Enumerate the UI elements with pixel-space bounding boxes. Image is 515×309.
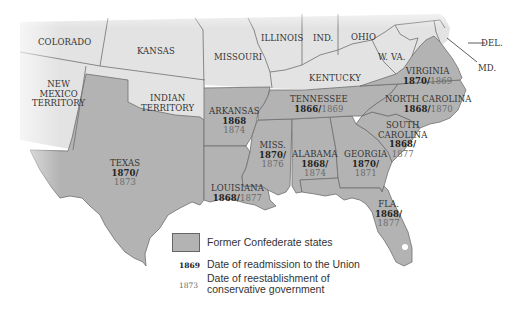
lake-okeechobee xyxy=(402,244,408,250)
legend-readmission-sample: 1869 xyxy=(179,261,200,270)
conservative-year: 1874 xyxy=(209,126,260,136)
state-dates: 1866/1869 xyxy=(290,105,348,115)
readmission-year: 1868 xyxy=(404,104,428,114)
label-alabama: ALABAMA 1868/ 1874 xyxy=(292,150,338,179)
conservative-year: 1874 xyxy=(292,169,338,179)
label-kansas: KANSAS xyxy=(137,47,175,57)
conservative-year: 1869 xyxy=(322,104,344,114)
label-maryland: MD. xyxy=(478,64,496,74)
conservative-year: 1876 xyxy=(259,160,286,170)
label-line: TERRITORY xyxy=(32,99,85,109)
legend-conservative-line2: conservative government xyxy=(207,284,330,295)
conservative-year: 1877 xyxy=(240,193,262,203)
label-arkansas: ARKANSAS 1868 1874 xyxy=(209,107,260,136)
readmission-year: 1870 xyxy=(403,76,427,86)
conservative-year: 1873 xyxy=(110,178,140,188)
label-louisiana: LOUISIANA 1868/1877 xyxy=(211,184,264,203)
state-dates: 1868/1870 xyxy=(385,105,471,115)
label-west-virginia: W. VA. xyxy=(378,53,406,63)
label-georgia: GEORGIA 1870/ 1871 xyxy=(344,150,387,179)
label-texas: TEXAS 1870/ 1873 xyxy=(110,159,140,188)
readmission-year: 1866 xyxy=(294,104,318,114)
label-ohio: OHIO xyxy=(351,33,376,43)
label-north-carolina: NORTH CAROLINA 1868/1870 xyxy=(385,95,471,114)
label-florida: FLA. 1868/ 1877 xyxy=(375,200,402,229)
label-virginia: VIRGINIA 1870/1869 xyxy=(403,67,452,86)
label-missouri: MISSOURI xyxy=(214,53,262,63)
label-mississippi: MISS. 1870/ 1876 xyxy=(259,141,286,170)
legend-confederate-label: Former Confederate states xyxy=(207,236,332,248)
label-colorado: COLORADO xyxy=(38,38,91,48)
readmission-year: 1868 xyxy=(213,193,237,203)
label-new-mexico-territory: NEW MEXICO TERRITORY xyxy=(32,80,85,109)
label-tennessee: TENNESSEE 1866/1869 xyxy=(290,95,348,114)
reconstruction-map: COLORADO KANSAS MISSOURI ILLINOIS IND. O… xyxy=(0,0,515,309)
label-kentucky: KENTUCKY xyxy=(309,74,361,84)
label-delaware: DEL. xyxy=(481,39,503,49)
label-indiana: IND. xyxy=(313,34,333,44)
legend-conservative-label: Date of reestablishment of conservative … xyxy=(207,273,330,295)
conservative-year: 1870 xyxy=(431,104,453,114)
label-line: TERRITORY xyxy=(141,104,194,114)
legend-conservative-sample: 1873 xyxy=(179,281,198,290)
conservative-year: 1869 xyxy=(430,76,452,86)
conservative-year: 1877 xyxy=(375,219,402,229)
label-illinois: ILLINOIS xyxy=(261,34,303,44)
legend-readmission-label: Date of readmission to the Union xyxy=(207,258,360,270)
legend-confederate-swatch xyxy=(172,233,200,252)
label-indian-territory: INDIAN TERRITORY xyxy=(141,94,194,113)
state-dates: 1868/1877 xyxy=(211,194,264,204)
conservative-year: 1871 xyxy=(344,169,387,179)
state-dates: 1870/1869 xyxy=(403,77,452,87)
